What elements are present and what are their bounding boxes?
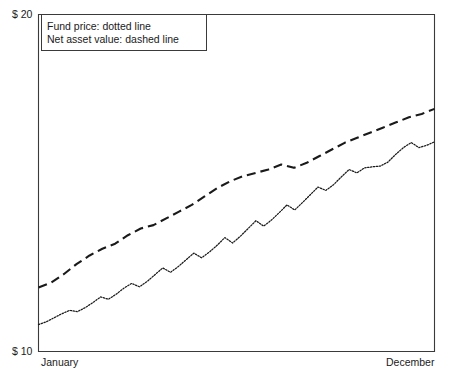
plot-area	[0, 0, 470, 384]
axis-frame	[39, 15, 435, 352]
series-line-fund-price	[39, 142, 435, 325]
chart-figure: $ 20 $ 10 January December Fund price: d…	[0, 0, 470, 384]
series-line-net-asset-value	[39, 109, 435, 288]
